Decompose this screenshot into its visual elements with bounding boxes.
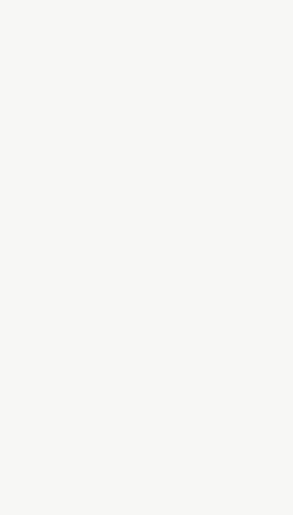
figure xyxy=(0,0,293,515)
